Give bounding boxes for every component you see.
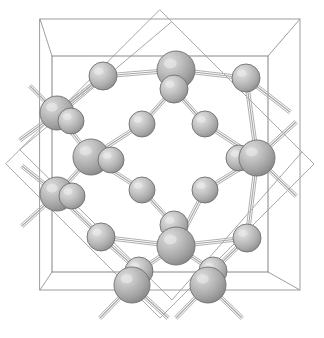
atom-sphere-a24 xyxy=(190,267,226,303)
atom-sphere-a12 xyxy=(239,140,275,176)
atom-highlight-a1 xyxy=(94,68,104,75)
atom-highlight-a6 xyxy=(63,113,72,120)
atom-a15 xyxy=(129,177,155,203)
atom-a22 xyxy=(114,267,150,303)
atom-a7 xyxy=(129,111,155,137)
atom-sphere-a7 xyxy=(129,111,155,137)
atom-highlight-a10 xyxy=(103,152,112,159)
atom-highlight-a15 xyxy=(134,182,143,189)
atom-sphere-a16 xyxy=(192,177,218,203)
atom-a12 xyxy=(239,140,275,176)
atom-highlight-a2 xyxy=(164,59,177,69)
atom-highlight-a18 xyxy=(165,217,175,224)
atom-sphere-a17 xyxy=(87,223,115,251)
atom-highlight-a24 xyxy=(196,274,208,283)
atom-highlight-a13 xyxy=(46,184,58,193)
atom-sphere-a10 xyxy=(98,147,124,173)
atom-highlight-a12 xyxy=(245,147,257,156)
atom-a6 xyxy=(58,108,84,134)
atom-sphere-a1 xyxy=(89,62,117,90)
atom-highlight-a11 xyxy=(231,150,240,157)
atom-highlight-a22 xyxy=(120,274,132,283)
atom-a4 xyxy=(232,64,260,92)
atom-sphere-a19 xyxy=(157,227,195,265)
atom-a10 xyxy=(98,147,124,173)
crystal-lattice-svg xyxy=(0,0,324,338)
atom-highlight-a7 xyxy=(134,116,143,123)
atom-sphere-a8 xyxy=(192,111,218,137)
atom-a17 xyxy=(87,223,115,251)
atom-highlight-a5 xyxy=(46,103,58,112)
atom-highlight-a14 xyxy=(64,188,73,195)
atom-sphere-a15 xyxy=(129,177,155,203)
atom-highlight-a3 xyxy=(165,81,175,88)
atom-highlight-a4 xyxy=(237,70,247,77)
atom-a1 xyxy=(89,62,117,90)
atom-a8 xyxy=(192,111,218,137)
atom-sphere-a3 xyxy=(160,75,188,103)
atom-sphere-a20 xyxy=(233,224,261,252)
atom-a16 xyxy=(192,177,218,203)
atom-sphere-a14 xyxy=(59,183,85,209)
atom-highlight-a19 xyxy=(164,235,177,245)
atom-a20 xyxy=(233,224,261,252)
atom-highlight-a8 xyxy=(197,116,206,123)
atom-highlight-a17 xyxy=(92,229,102,236)
atom-a14 xyxy=(59,183,85,209)
atom-highlight-a9 xyxy=(79,146,91,155)
atom-sphere-a4 xyxy=(232,64,260,92)
atom-highlight-a20 xyxy=(238,230,248,237)
atom-highlight-a16 xyxy=(197,182,206,189)
atom-a24 xyxy=(190,267,226,303)
atom-a19 xyxy=(157,227,195,265)
atom-sphere-a6 xyxy=(58,108,84,134)
figure-background xyxy=(0,0,324,338)
crystal-structure-figure: Crystal lattice unit cell diagram Perspe… xyxy=(0,0,324,338)
atom-a3 xyxy=(160,75,188,103)
atom-sphere-a22 xyxy=(114,267,150,303)
